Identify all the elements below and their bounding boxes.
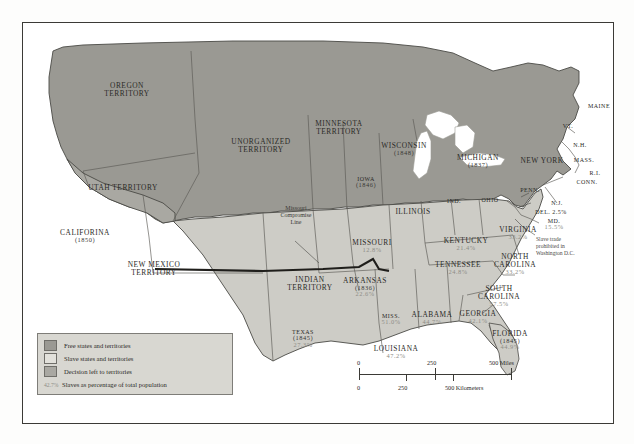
legend-label-percent: Slaves as percentage of total population <box>62 381 167 388</box>
map-figure: OREGON TERRITORYUTAH TERRITORYCALIFORINA… <box>0 0 634 444</box>
legend-label-decision: Decision left to territories <box>64 368 132 375</box>
legend-swatch-slave <box>44 353 57 364</box>
map-frame: OREGON TERRITORYUTAH TERRITORYCALIFORINA… <box>22 22 614 424</box>
scale-tick-mi-0 <box>359 368 360 380</box>
scale-km-250: 250 <box>398 384 407 391</box>
scale-tick-km-500 <box>453 374 454 381</box>
scale-tick-mi-500 <box>511 368 512 380</box>
legend-swatch-decision <box>44 366 57 377</box>
scale-km-0: 0 <box>357 384 360 391</box>
scale-tick-mi-250 <box>435 368 436 380</box>
legend-row-decision: Decision left to territories <box>44 365 226 378</box>
legend-row-percent-key: 42.7% Slaves as percentage of total popu… <box>44 378 226 391</box>
legend-label-free: Free states and territories <box>64 342 130 349</box>
legend-percent-sample: 42.7% <box>44 382 55 388</box>
legend-swatch-free <box>44 340 57 351</box>
dc-slave-trade-note: Slave trade prohibited in Washington D.C… <box>536 236 606 257</box>
scale-bars: 0 250 500 Miles 0 250 500 Kilometers <box>353 359 533 405</box>
missouri-compromise-label: Missouri Compromise Line <box>263 205 329 227</box>
scale-tick-km-250 <box>406 374 407 381</box>
scale-miles-250: 250 <box>427 359 436 366</box>
map-legend: Free states and territories Slave states… <box>37 333 233 395</box>
legend-row-free: Free states and territories <box>44 339 226 352</box>
legend-row-slave: Slave states and territories <box>44 352 226 365</box>
scale-miles-500: 500 Miles <box>489 359 514 366</box>
scale-miles-0: 0 <box>357 359 360 366</box>
legend-label-slave: Slave states and territories <box>64 355 133 362</box>
scale-km-500: 500 Kilometers <box>445 384 483 391</box>
